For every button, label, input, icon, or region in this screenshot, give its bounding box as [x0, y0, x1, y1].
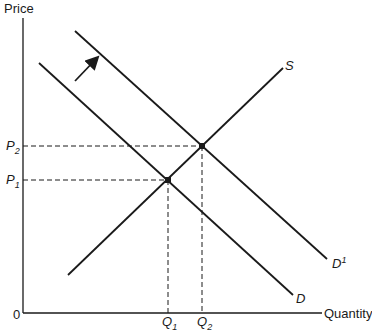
p2-subscript: 2 — [14, 146, 20, 156]
price-label-p2: P2 — [6, 138, 20, 156]
shift-arrow-icon — [75, 58, 97, 81]
demand-shifted-prime: 1 — [341, 255, 346, 265]
origin-label: 0 — [13, 307, 20, 322]
p1-subscript: 1 — [15, 180, 20, 190]
x-axis-label: Quantity — [324, 306, 372, 321]
p2-letter: P — [6, 138, 15, 153]
supply-demand-diagram: Price Quantity 0 S D D1 P1 P2 Q1 Q2 — [0, 0, 372, 331]
demand-label: D — [296, 291, 305, 306]
price-label-p1: P1 — [6, 172, 20, 190]
equilibrium-point-2 — [199, 143, 205, 149]
quantity-label-q1: Q1 — [162, 314, 177, 331]
quantity-label-q2: Q2 — [197, 314, 212, 331]
supply-label: S — [285, 58, 294, 73]
y-axis-label: Price — [4, 1, 34, 16]
q1-letter: Q — [162, 314, 172, 329]
demand-shifted-label: D1 — [332, 255, 346, 271]
demand-shifted-letter: D — [332, 256, 341, 271]
supply-curve — [68, 68, 283, 275]
p1-letter: P — [6, 172, 15, 187]
q1-subscript: 1 — [172, 322, 177, 331]
q2-subscript: 2 — [206, 322, 212, 331]
equilibrium-point-1 — [165, 177, 171, 183]
q2-letter: Q — [197, 314, 207, 329]
